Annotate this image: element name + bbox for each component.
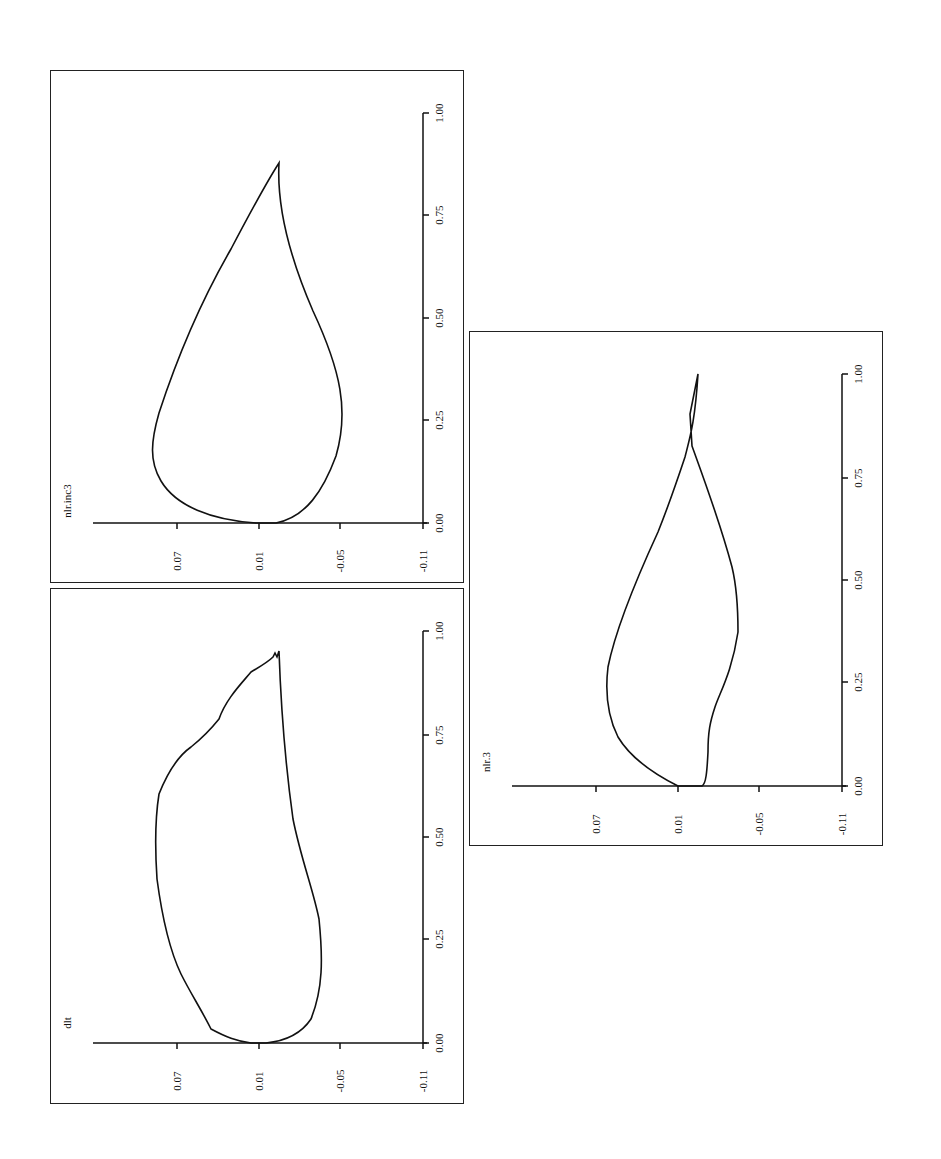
y-axis-ticks [177, 1043, 423, 1049]
y-tick-label: 0.01 [253, 1071, 265, 1090]
x-tick-label: 0.00 [852, 776, 864, 796]
x-tick-label: 0.25 [433, 410, 445, 430]
x-tick-label: 0.25 [852, 672, 864, 692]
y-tick-label: -0.05 [334, 1069, 346, 1092]
curve-loop [607, 374, 738, 786]
curve-loop [156, 651, 322, 1043]
x-tick-label: 0.75 [433, 725, 445, 745]
x-tick-label: 0.25 [433, 929, 445, 949]
x-axis-ticks [423, 113, 429, 523]
x-tick-label: 0.75 [433, 205, 445, 225]
y-tick-label: -0.05 [753, 812, 765, 835]
y-tick-label: 0.01 [672, 814, 684, 833]
curve-loop [153, 163, 343, 523]
y-tick-label: 0.01 [253, 551, 265, 570]
x-tick-label: 0.00 [433, 513, 445, 533]
plot-area: 0.00 0.25 0.50 0.75 1.00 0.07 0.01 -0.05… [51, 71, 465, 584]
y-axis-ticks [177, 523, 423, 529]
y-tick-label: -0.11 [836, 813, 848, 836]
plot-area: 0.00 0.25 0.50 0.75 1.00 0.07 0.01 -0.05… [470, 332, 884, 847]
x-tick-label: 0.50 [433, 827, 445, 847]
y-tick-label: 0.07 [590, 814, 602, 834]
y-tick-label: 0.07 [171, 1071, 183, 1091]
chart-panel-nlr-3: 0.00 0.25 0.50 0.75 1.00 0.07 0.01 -0.05… [469, 331, 883, 846]
panel-label: nlr.inc3 [61, 484, 73, 518]
panel-label: nlr.3 [480, 752, 492, 772]
x-tick-label: 1.00 [433, 621, 445, 641]
x-tick-label: 0.50 [433, 308, 445, 328]
y-tick-label: -0.11 [417, 550, 429, 573]
plot-area: 0.00 0.25 0.50 0.75 1.00 0.07 0.01 -0.05… [51, 589, 465, 1105]
y-tick-label: 0.07 [171, 551, 183, 571]
x-tick-label: 0.50 [852, 570, 864, 590]
chart-panel-nlr-inc3: 0.00 0.25 0.50 0.75 1.00 0.07 0.01 -0.05… [50, 70, 464, 583]
x-axis-ticks [423, 631, 429, 1043]
x-tick-label: 1.00 [852, 364, 864, 384]
x-tick-label: 0.75 [852, 468, 864, 488]
chart-panel-dlt: 0.00 0.25 0.50 0.75 1.00 0.07 0.01 -0.05… [50, 588, 464, 1104]
x-tick-label: 0.00 [433, 1033, 445, 1053]
x-tick-label: 1.00 [433, 103, 445, 123]
x-axis-ticks [842, 374, 848, 786]
y-tick-label: -0.11 [417, 1070, 429, 1093]
panel-label: dlt [61, 1017, 73, 1029]
y-axis-ticks [596, 786, 842, 792]
y-tick-label: -0.05 [334, 549, 346, 572]
